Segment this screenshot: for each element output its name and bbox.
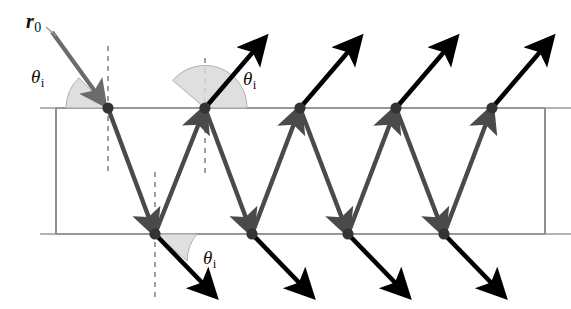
label-theta-bottom-transmitted-subscript: i [213,256,217,271]
label-r0: r0 [26,10,41,36]
label-r0-symbol: r [26,10,34,32]
node-bottom-1 [246,228,257,239]
node-top-2 [294,102,305,113]
outgoing-ray-top-4 [492,38,552,108]
node-bottom-3 [438,228,449,239]
node-top-1 [199,102,210,113]
label-theta-incident-symbol: θ [31,66,40,87]
outgoing-rays-top [205,38,552,108]
label-theta-incident: θi [31,66,44,91]
label-theta-bottom-transmitted: θi [203,247,216,272]
label-theta-incident-subscript: i [41,75,45,90]
outgoing-ray-bottom-3 [348,234,408,296]
label-theta-top-reflected: θi [243,68,256,93]
node-bottom-0 [149,228,160,239]
r0-leader-line [46,27,56,36]
node-bottom-2 [342,228,353,239]
node-top-3 [390,102,401,113]
outgoing-ray-top-3 [396,38,456,108]
node-top-0 [102,102,113,113]
node-top-4 [486,102,497,113]
label-r0-subscript: 0 [34,20,41,35]
label-theta-top-reflected-symbol: θ [243,68,252,89]
label-theta-top-reflected-subscript: i [253,77,257,92]
ray-diagram-figure: r0 θi θi θi [0,0,571,309]
outgoing-ray-top-2 [300,38,360,108]
outgoing-ray-bottom-4 [444,234,504,296]
label-theta-bottom-transmitted-symbol: θ [203,247,212,268]
outgoing-ray-bottom-2 [252,234,312,296]
ray-diagram-canvas [0,0,571,309]
